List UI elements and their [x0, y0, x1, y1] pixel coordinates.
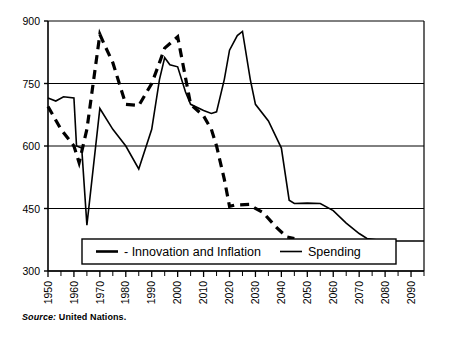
x-tick-label-2070: 2070 — [353, 281, 365, 305]
x-tick-label-2000: 2000 — [171, 281, 183, 305]
chart-legend: - Innovation and InflationSpending — [82, 239, 396, 264]
x-tick-label-2040: 2040 — [275, 281, 287, 305]
x-tick-label-1970: 1970 — [94, 281, 106, 305]
line-chart: 300450600750900 195019601970198019902000… — [0, 0, 451, 338]
x-tick-label-1990: 1990 — [145, 281, 157, 305]
x-tick-label-1950: 1950 — [42, 281, 54, 305]
y-tick-label-600: 600 — [22, 140, 40, 152]
y-tick-label-450: 450 — [22, 203, 40, 215]
x-tick-label-2030: 2030 — [249, 281, 261, 305]
x-axis-tick-labels: 1950196019701980199020002010202020302040… — [42, 281, 417, 305]
x-tick-label-1960: 1960 — [68, 281, 80, 305]
source-value: United Nations. — [59, 312, 127, 322]
x-tick-label-2050: 2050 — [301, 281, 313, 305]
source-note: Source: United Nations. — [22, 312, 126, 322]
x-tick-label-2010: 2010 — [197, 281, 209, 305]
x-tick-label-2060: 2060 — [327, 281, 339, 305]
x-tick-label-2090: 2090 — [405, 281, 417, 305]
x-tick-label-2080: 2080 — [379, 281, 391, 305]
chart-figure: 300450600750900 195019601970198019902000… — [0, 0, 451, 338]
y-tick-label-900: 900 — [22, 15, 40, 27]
x-tick-label-1980: 1980 — [119, 281, 131, 305]
y-tick-label-300: 300 — [22, 265, 40, 277]
legend-label-1: Spending — [308, 245, 361, 259]
source-label: Source: — [22, 312, 56, 322]
legend-label-0: - Innovation and Inflation — [124, 245, 261, 259]
x-tick-label-2020: 2020 — [223, 281, 235, 305]
y-tick-label-750: 750 — [22, 78, 40, 90]
